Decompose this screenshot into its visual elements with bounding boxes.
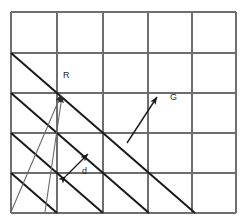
lattice-grid — [11, 12, 236, 213]
measure-d-label: d — [82, 167, 87, 176]
vector-G-label: G — [170, 93, 177, 102]
lattice-plane-line — [11, 93, 149, 213]
vector-R-label: R — [63, 71, 70, 80]
vector-G-arrow-shaft — [127, 97, 157, 143]
vector-G — [127, 97, 157, 143]
lattice-plane-diagram — [0, 0, 246, 223]
